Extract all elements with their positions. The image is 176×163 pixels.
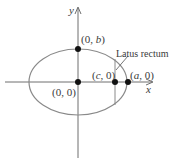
y-axis-label: y [68, 4, 74, 16]
focus-label: (c, 0) [92, 69, 116, 82]
point-covertex [75, 46, 81, 52]
diagram-canvas: y x (0, b) (0, 0) (c, 0) (a, 0) Latus re… [0, 0, 176, 163]
x-axis-label: x [145, 83, 151, 95]
vertex-label: (a, 0) [130, 69, 154, 82]
ellipse-diagram: y x (0, b) (0, 0) (c, 0) (a, 0) Latus re… [0, 0, 176, 163]
latus-rectum-annotation: Latus rectum [116, 48, 169, 59]
origin-label: (0, 0) [52, 86, 76, 99]
point-origin [75, 79, 81, 85]
covertex-label: (0, b) [81, 33, 105, 46]
